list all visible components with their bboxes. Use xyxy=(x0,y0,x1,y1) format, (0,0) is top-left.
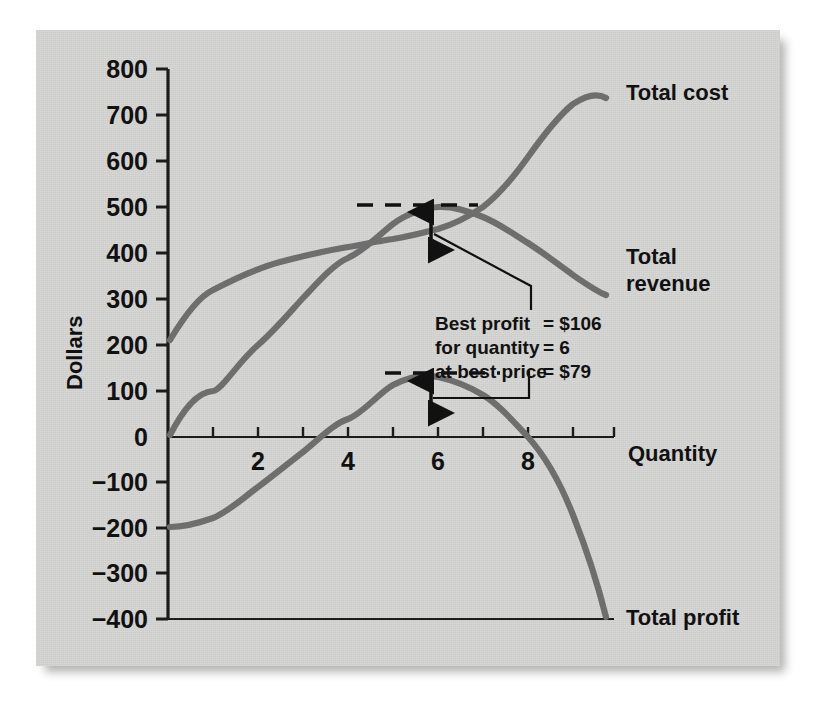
ytick-label-m300: −300 xyxy=(92,559,148,587)
total-cost-curve xyxy=(170,95,606,340)
chart-figure: 800 700 600 500 400 300 200 100 0 −100 −… xyxy=(0,0,836,706)
series-label-total-cost: Total cost xyxy=(626,80,729,105)
callout-row3-label: at best price xyxy=(435,361,547,382)
callout-row2-value: = 6 xyxy=(543,337,570,358)
ytick-label-400: 400 xyxy=(106,239,148,267)
xtick-label-2: 2 xyxy=(251,447,265,475)
ytick-label-300: 300 xyxy=(106,285,148,313)
callout-row1-label: Best profit xyxy=(435,313,531,334)
callout-row3-value: = $79 xyxy=(543,361,591,382)
series-label-total-revenue-line2: revenue xyxy=(626,271,710,296)
series-label-total-profit: Total profit xyxy=(626,605,740,630)
ytick-label-700: 700 xyxy=(106,101,148,129)
xtick-label-6: 6 xyxy=(431,447,445,475)
ytick-label-0: 0 xyxy=(134,423,148,451)
ytick-label-m100: −100 xyxy=(92,468,148,496)
y-axis-title: Dollars xyxy=(62,315,87,390)
ytick-label-m200: −200 xyxy=(92,514,148,542)
total-profit-curve xyxy=(170,376,606,617)
chart-plot-area: 800 700 600 500 400 300 200 100 0 −100 −… xyxy=(0,0,836,706)
ytick-label-100: 100 xyxy=(106,377,148,405)
y-axis-ticks xyxy=(156,69,168,619)
ytick-label-m400: −400 xyxy=(92,605,148,633)
callout-leader-upper xyxy=(434,234,531,310)
ytick-label-500: 500 xyxy=(106,193,148,221)
xtick-label-4: 4 xyxy=(341,447,355,475)
callout-row2-label: for quantity xyxy=(435,337,540,358)
ytick-label-200: 200 xyxy=(106,331,148,359)
ytick-label-800: 800 xyxy=(106,55,148,83)
ytick-label-600: 600 xyxy=(106,147,148,175)
x-axis-title: Quantity xyxy=(628,441,718,466)
xtick-label-8: 8 xyxy=(521,447,535,475)
series-label-total-revenue-line1: Total xyxy=(626,244,677,269)
callout-row1-value: = $106 xyxy=(543,313,602,334)
x-axis-ticks xyxy=(213,427,614,437)
